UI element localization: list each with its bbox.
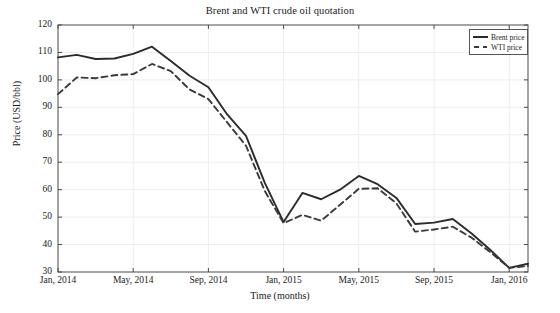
x-tick-label: Jan, 2015 [249,275,319,285]
axis-ticks [58,25,528,272]
y-tick-label: 120 [22,19,52,29]
y-tick-label: 80 [22,129,52,139]
y-tick-label: 50 [22,211,52,221]
legend-label-brent: Brent price [491,33,525,42]
x-axis-label: Time (months) [0,290,560,301]
y-tick-label: 110 [22,46,52,56]
legend-item-wti: WTI price [473,42,524,52]
gridlines [58,25,528,272]
x-tick-label: Jan, 2016 [474,275,544,285]
x-tick-label: Sep, 2015 [399,275,469,285]
y-tick-label: 90 [22,101,52,111]
y-tick-label: 60 [22,184,52,194]
chart-figure: Brent and WTI crude oil quotation Price … [0,0,560,313]
y-tick-label: 70 [22,156,52,166]
y-tick-label: 100 [22,74,52,84]
x-tick-label: May, 2015 [324,275,394,285]
legend-label-wti: WTI price [491,43,522,52]
chart-legend: Brent price WTI price [469,29,528,55]
plot-frame [58,25,528,272]
x-tick-label: May, 2014 [98,275,168,285]
series-line-wti [58,64,528,268]
legend-swatch-solid-icon [473,33,488,41]
legend-item-brent: Brent price [473,32,524,42]
x-tick-label: Jan, 2014 [23,275,93,285]
x-tick-label: Sep, 2014 [173,275,243,285]
y-tick-label: 40 [22,239,52,249]
legend-swatch-dashed-icon [473,43,488,51]
